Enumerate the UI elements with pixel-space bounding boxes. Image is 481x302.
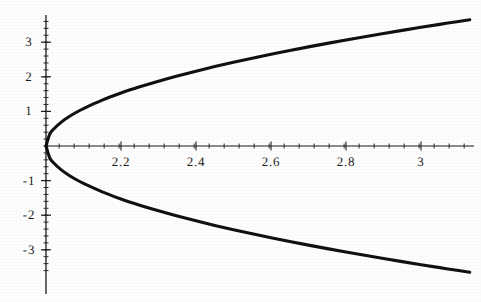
x-tick-label: 2.8 [337,154,356,170]
y-tick-label: 2 [25,69,32,85]
plot-figure: 2.22.42.62.83 321-1-2-3 [0,0,481,302]
x-tick-label: 2.2 [112,154,131,170]
plot-canvas [0,0,481,302]
x-tick-label: 3 [417,154,424,170]
x-tick-label: 2.6 [262,154,281,170]
y-tick-label: 3 [25,34,32,50]
parabola-upper-branch [46,20,470,146]
parabola-lower-branch [46,146,470,272]
y-tick-label: -2 [23,207,35,223]
y-tick-label: -3 [23,242,35,258]
y-tick-label: 1 [25,103,32,119]
y-tick-label: -1 [23,173,35,189]
x-tick-label: 2.4 [187,154,206,170]
